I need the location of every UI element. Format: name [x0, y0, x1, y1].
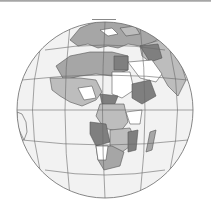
- globe-map[interactable]: [0, 0, 211, 216]
- namibia: [96, 146, 108, 160]
- egypt: [114, 56, 128, 70]
